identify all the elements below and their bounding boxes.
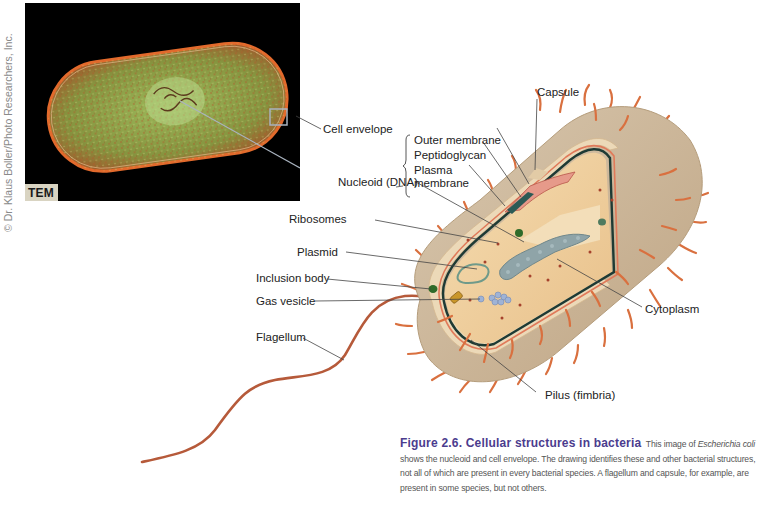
label-cell-envelope: Cell envelope — [323, 123, 393, 136]
label-outer-membrane: Outer membrane — [414, 134, 501, 147]
label-peptidoglycan: Peptidoglycan — [414, 149, 486, 162]
label-plasma-membrane-line1: Plasma — [414, 164, 452, 177]
caption-text-1: This image of — [646, 439, 698, 449]
label-capsule: Capsule — [537, 86, 579, 99]
figure-caption: Figure 2.6. Cellular structures in bacte… — [400, 436, 769, 495]
label-ribosomes: Ribosomes — [289, 213, 347, 226]
label-plasmid: Plasmid — [297, 246, 338, 259]
label-plasma-membrane-line2: membrane — [414, 177, 469, 190]
label-gas-vesicle: Gas vesicle — [256, 295, 315, 308]
caption-text-2: shows the nucleoid and cell envelope. Th… — [400, 454, 755, 493]
caption-species: Escherichia coli — [698, 439, 755, 449]
label-flagellum: Flagellum — [256, 331, 306, 344]
label-cytoplasm: Cytoplasm — [645, 303, 699, 316]
label-pilus: Pilus (fimbria) — [545, 389, 615, 402]
bacterium-cutaway-drawing — [0, 0, 769, 507]
label-nucleoid: Nucleoid (DNA) — [338, 176, 418, 189]
figure-title: Figure 2.6. Cellular structures in bacte… — [400, 436, 641, 450]
label-inclusion-body: Inclusion body — [256, 272, 330, 285]
